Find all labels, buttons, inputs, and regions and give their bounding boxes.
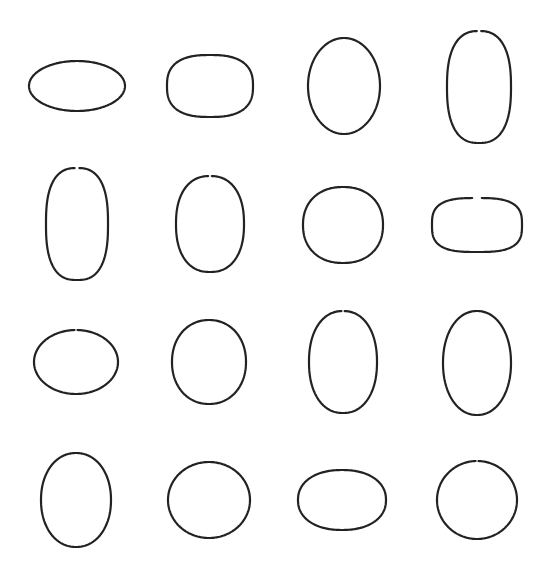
ellipse-grid <box>0 0 549 574</box>
ellipse-outline-r2-c2 <box>176 176 244 272</box>
ellipse-outline-r1-c1 <box>29 61 125 111</box>
ellipse-outline-r1-c3 <box>308 38 380 134</box>
ellipse-outline-r3-c1 <box>34 330 118 394</box>
ellipse-outline-r3-c3 <box>309 311 377 413</box>
ellipse-outline-r2-c3 <box>303 187 383 263</box>
ellipse-outline-r2-c4 <box>432 198 522 252</box>
ellipse-outline-r4-c3 <box>298 470 386 530</box>
ellipse-outline-r3-c4 <box>443 311 511 415</box>
ellipse-outline-r4-c2 <box>168 462 250 538</box>
ellipse-outline-r4-c4 <box>437 461 517 539</box>
ellipse-outline-r1-c4 <box>447 31 511 143</box>
ellipse-outline-r3-c2 <box>172 320 246 404</box>
ellipse-outline-r2-c1 <box>46 168 108 280</box>
ellipse-outline-r1-c2 <box>167 55 253 117</box>
shape-grid-canvas <box>0 0 549 574</box>
ellipse-outline-r4-c1 <box>41 453 111 547</box>
